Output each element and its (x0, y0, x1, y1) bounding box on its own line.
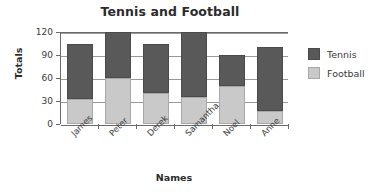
gridline (61, 56, 288, 57)
y-tick-mark (56, 124, 60, 125)
chart-title: Tennis and Football (0, 4, 340, 19)
plot-area (60, 32, 288, 124)
y-tick-label: 60 (13, 73, 53, 83)
y-tick-mark (56, 101, 60, 102)
y-tick-label: 30 (13, 96, 53, 106)
bar-segment-tennis[interactable] (181, 32, 207, 97)
x-axis-label: Names (60, 172, 288, 183)
y-tick-mark (56, 55, 60, 56)
y-tick-label: 90 (13, 50, 53, 60)
x-tick-mark (250, 124, 251, 129)
bar-segment-tennis[interactable] (105, 32, 131, 78)
legend-label: Tennis (327, 49, 357, 60)
y-tick-mark (56, 32, 60, 33)
bar-segment-tennis[interactable] (257, 47, 283, 111)
y-tick-label: 0 (13, 119, 53, 129)
chart-legend: TennisFootball (308, 48, 365, 86)
bar-segment-tennis[interactable] (143, 44, 169, 93)
bar-group[interactable] (257, 32, 283, 124)
legend-item[interactable]: Tennis (308, 48, 365, 60)
gridline (61, 102, 288, 103)
x-tick-mark (136, 124, 137, 129)
chart-container: Tennis and Football Totals Names TennisF… (0, 0, 392, 192)
y-tick-mark (56, 78, 60, 79)
bar-group[interactable] (105, 32, 131, 124)
bar-segment-tennis[interactable] (219, 55, 245, 86)
x-tick-mark (98, 124, 99, 129)
y-tick-label: 120 (13, 27, 53, 37)
x-tick-mark (288, 124, 289, 129)
legend-label: Football (327, 68, 365, 79)
bar-segment-football[interactable] (105, 78, 131, 124)
bar-group[interactable] (219, 32, 245, 124)
legend-item[interactable]: Football (308, 67, 365, 79)
legend-swatch-icon (308, 48, 320, 60)
x-tick-mark (212, 124, 213, 129)
bar-group[interactable] (67, 32, 93, 124)
bar-segment-tennis[interactable] (67, 44, 93, 99)
legend-swatch-icon (308, 67, 320, 79)
bar-group[interactable] (143, 32, 169, 124)
x-tick-mark (174, 124, 175, 129)
gridline (61, 79, 288, 80)
gridline (61, 33, 288, 34)
